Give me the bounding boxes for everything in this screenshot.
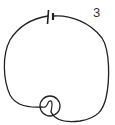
wire-left	[4, 16, 48, 107]
diagram-label: 3	[93, 5, 100, 20]
bulb-icon	[40, 96, 60, 116]
battery-icon	[48, 10, 54, 24]
